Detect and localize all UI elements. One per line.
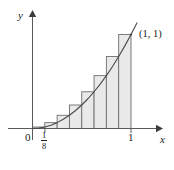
x-tick-label-one-eighth: 1 8: [41, 131, 47, 151]
x-axis-arrowhead: [156, 125, 163, 132]
fraction-denominator: 8: [41, 142, 47, 151]
plot-area: [0, 0, 174, 170]
x-axis-label: x: [160, 134, 165, 145]
y-axis-label: y: [18, 10, 23, 21]
riemann-rectangle: [69, 105, 81, 129]
origin-tick-label: 0: [25, 132, 31, 143]
curve-endpoint-marker: [130, 34, 132, 36]
riemann-sum-figure: y x 0 1 1 8 (1, 1): [0, 0, 174, 170]
riemann-rectangle: [82, 92, 94, 129]
x-tick-label-one: 1: [128, 132, 134, 143]
y-axis-arrowhead: [29, 10, 36, 17]
riemann-rectangles: [33, 35, 132, 129]
curve-endpoint-label: (1, 1): [139, 29, 162, 40]
axis-ticks: [45, 129, 131, 134]
fraction-numerator: 1: [41, 131, 47, 140]
riemann-rectangle: [119, 35, 131, 129]
